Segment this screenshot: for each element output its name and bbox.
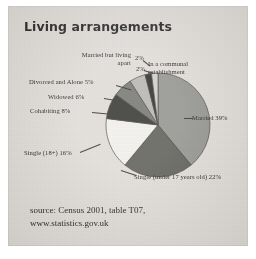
source-line-1: source: Census 2001, table T07, [30, 204, 145, 217]
source-line-2: www.statistics.gov.uk [30, 217, 145, 230]
slice-label-single-18-plus: Single (18+) 16% [24, 149, 72, 157]
pie-chart [105, 72, 211, 178]
leader-line-cohabiting [92, 112, 108, 114]
chart-card: Living arrangements Married but living a… [8, 6, 248, 246]
slice-label-divorced-and-alone: Divorced and Alone 5% [29, 78, 94, 86]
slice-label-cohabiting: Cohabiting 8% [30, 107, 70, 115]
slice-label-married-but-living-apart: Married but living apart [67, 51, 131, 67]
slice-label-single-under-17: Single (under 17 years old) 22% [134, 173, 221, 181]
pie-chart-svg [105, 72, 211, 178]
slice-label-married: Married 39% [192, 114, 228, 122]
source-note: source: Census 2001, table T07, www.stat… [30, 204, 145, 229]
slice-label-communal-establishment: In a communal establishment [148, 60, 214, 76]
pie-slices [106, 73, 210, 177]
page-title: Living arrangements [24, 19, 172, 34]
leader-line-single-18-plus [80, 144, 101, 153]
slice-label-widowed: Widowed 6% [48, 93, 84, 101]
slice-value-communal-establishment: 2% [136, 65, 145, 72]
slice-value-married-but-living-apart: 2% [135, 54, 144, 61]
figure-image: Living arrangements Married but living a… [0, 0, 256, 259]
